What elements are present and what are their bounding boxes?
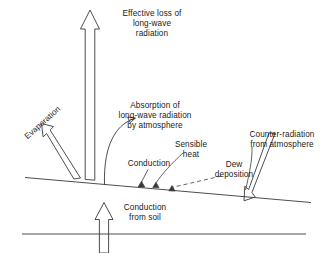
dew-marker-icon [169,186,175,192]
label-conduction: Conduction [123,159,175,169]
label-counter-radiation-from-atmosphere: Counter-radiation from atmosphere [236,130,328,150]
label-dew-deposition: Dew deposition [208,160,260,180]
conduction-marker-base [138,186,144,187]
energy-balance-diagram: Effective loss of long-wave radiation Ab… [0,0,331,253]
label-effective-loss-of-longwave-radiation: Effective loss of long-wave radiation [104,9,200,40]
label-absorption-of-longwave-radiation-by-atmosphere: Absorption of long-wave radiation by atm… [103,101,207,132]
ground-surface-line [25,178,311,203]
evaporation-arrow [42,124,81,180]
soil-conduction-arrow [95,203,113,253]
conduction-leader [142,170,149,183]
label-conduction-from-soil: Conduction from soil [116,203,174,223]
sensible-heat-marker-icon [153,182,159,188]
label-sensible-heat: Sensible heat [167,140,215,160]
conduction-marker-icon [139,181,145,186]
effective-loss-arrow [81,10,100,180]
